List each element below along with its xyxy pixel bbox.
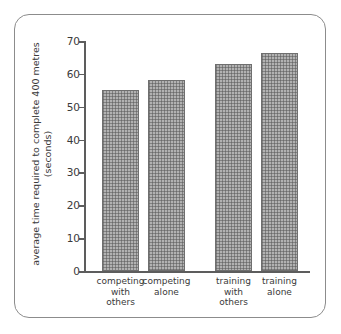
plot-area: 010203040506070 competingwithotherscompe… bbox=[84, 36, 316, 272]
y-tick-label: 50 bbox=[67, 101, 80, 112]
bar-2 bbox=[148, 80, 185, 271]
category-label-2: competingalone bbox=[136, 276, 197, 297]
category-label-line: alone bbox=[249, 287, 310, 298]
y-tick-label: 10 bbox=[67, 233, 80, 244]
category-label-line: others bbox=[203, 297, 264, 308]
y-tick-label: 60 bbox=[67, 69, 80, 80]
bar-3 bbox=[215, 64, 252, 271]
y-tick-label: 40 bbox=[67, 134, 80, 145]
category-label-4: trainingalone bbox=[249, 276, 310, 297]
y-tick-label: 0 bbox=[73, 266, 80, 277]
bar-1 bbox=[102, 90, 139, 271]
y-tick-label: 30 bbox=[67, 167, 80, 178]
y-tick-label: 70 bbox=[67, 36, 80, 47]
chart-figure: average time required to complete 400 me… bbox=[0, 0, 341, 334]
y-axis-line bbox=[84, 41, 86, 272]
category-label-line: others bbox=[90, 297, 151, 308]
category-label-line: alone bbox=[136, 287, 197, 298]
y-axis-title: average time required to complete 400 me… bbox=[30, 36, 56, 272]
category-label-line: competing bbox=[136, 276, 197, 287]
category-label-line: training bbox=[249, 276, 310, 287]
bar-4 bbox=[261, 53, 298, 272]
x-axis-line bbox=[84, 271, 310, 273]
y-tick-label: 20 bbox=[67, 200, 80, 211]
